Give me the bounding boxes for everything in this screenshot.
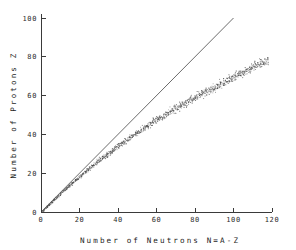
nuclide-point: [264, 59, 265, 60]
nuclide-point: [248, 72, 249, 73]
nuclide-point: [155, 118, 156, 119]
nuclide-point: [181, 105, 182, 106]
nuclide-point: [214, 89, 215, 90]
nuclide-point: [159, 119, 160, 120]
nuclide-point: [132, 136, 133, 137]
nuclide-point: [255, 66, 256, 67]
nuclide-point: [197, 97, 198, 98]
nuclide-point: [198, 94, 199, 95]
nuclide-point: [224, 85, 225, 86]
nuclide-point: [186, 103, 187, 104]
nuclide-point: [136, 133, 137, 134]
nuclide-point: [206, 88, 207, 89]
nuclide-point: [175, 106, 176, 107]
nuclide-point: [240, 71, 241, 72]
nuclide-point: [263, 63, 264, 64]
nuclide-point: [231, 81, 232, 82]
x-tick-label: 60: [152, 216, 162, 224]
nuclide-point: [184, 102, 185, 103]
nuclide-point: [211, 87, 212, 88]
nuclide-point: [169, 114, 170, 115]
nuclide-point: [219, 79, 220, 80]
nuclide-point: [260, 67, 261, 68]
nuclide-point: [211, 88, 212, 89]
nuclide-point: [138, 133, 139, 134]
nuclide-point: [75, 179, 76, 180]
nuclide-point: [261, 66, 262, 67]
nuclide-point: [110, 155, 111, 156]
nuclide-point: [244, 75, 245, 76]
nuclide-point: [217, 87, 218, 88]
nuclide-point: [255, 61, 256, 62]
nuclide-point: [122, 145, 123, 146]
nuclide-point: [238, 72, 239, 73]
nuclide-point: [111, 152, 112, 153]
nuclide-point: [204, 92, 205, 93]
nuclide-point: [186, 100, 187, 101]
nuclide-point: [90, 168, 91, 169]
nuclide-point: [235, 78, 236, 79]
nuclide-point: [229, 80, 230, 81]
nuclide-point: [81, 177, 82, 178]
nuclide-point: [156, 123, 157, 124]
nuclide-point: [52, 202, 53, 203]
nuclide-point: [140, 132, 141, 133]
nuclide-point: [140, 129, 141, 130]
nuclide-point: [137, 135, 138, 136]
nuclide-point: [233, 74, 234, 75]
nuclide-point: [131, 138, 132, 139]
nuclide-point: [232, 78, 233, 79]
nuclide-point: [123, 141, 124, 142]
nuclide-point: [124, 142, 125, 143]
nuclide-point: [165, 112, 166, 113]
nuclide-point: [225, 82, 226, 83]
nuclide-point: [206, 90, 207, 91]
nuclide-point: [158, 117, 159, 118]
nuclide-point: [213, 86, 214, 87]
nuclide-point: [190, 96, 191, 97]
nuclide-point: [182, 103, 183, 104]
nuclide-point: [208, 91, 209, 92]
nuclide-point: [199, 94, 200, 95]
nuclide-point: [211, 91, 212, 92]
nuclide-point: [107, 156, 108, 157]
nuclide-point: [98, 159, 99, 160]
nuclide-point: [102, 158, 103, 159]
nuclide-point: [142, 125, 143, 126]
nuclide-point: [73, 181, 74, 182]
nuclide-point: [252, 67, 253, 68]
nuclide-point: [220, 84, 221, 85]
nuclide-point: [209, 94, 210, 95]
nuclide-point: [180, 104, 181, 105]
y-tick-label: 100: [23, 15, 37, 23]
nuclide-point: [188, 104, 189, 105]
y-tick-label: 20: [27, 170, 37, 178]
nuclide-point: [141, 129, 142, 130]
nuclide-point: [114, 146, 115, 147]
nuclide-point: [156, 116, 157, 117]
nuclide-point: [189, 98, 190, 99]
nuclide-point: [97, 159, 98, 160]
nuclide-point: [228, 83, 229, 84]
nuclide-point: [224, 83, 225, 84]
nuclide-point: [97, 160, 98, 161]
nuclide-point: [117, 144, 118, 145]
nuclide-point: [219, 84, 220, 85]
nuclide-point: [248, 68, 249, 69]
nuclide-point: [228, 74, 229, 75]
nuclide-point: [233, 76, 234, 77]
nuclide-point: [179, 106, 180, 107]
nuclide-point: [223, 80, 224, 81]
nuclide-point: [215, 85, 216, 86]
nuclide-point: [225, 84, 226, 85]
nuclide-point: [92, 166, 93, 167]
nuclide-point: [212, 92, 213, 93]
nuclide-point: [249, 72, 250, 73]
nuclide-point: [170, 112, 171, 113]
nuclide-point: [219, 87, 220, 88]
nuclide-point: [191, 95, 192, 96]
nuclide-point: [262, 62, 263, 63]
nuclide-point: [262, 60, 263, 61]
nuclide-point: [247, 71, 248, 72]
nuclide-point: [152, 125, 153, 126]
